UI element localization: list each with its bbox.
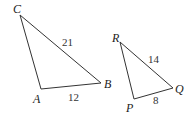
vertex-label-p: P — [125, 101, 134, 114]
side-label-pq: 8 — [153, 94, 159, 106]
triangle-pqr-outline — [120, 42, 173, 99]
side-label-cb: 21 — [62, 36, 73, 48]
side-label-rq: 14 — [148, 53, 160, 65]
triangle-pqr: R P Q 14 8 — [111, 31, 184, 114]
side-label-ab: 12 — [68, 91, 79, 103]
similar-triangles-diagram: C A B 21 12 R P Q 14 8 — [0, 0, 190, 114]
vertex-label-b: B — [104, 77, 112, 91]
vertex-label-r: R — [111, 31, 120, 45]
triangle-abc: C A B 21 12 — [13, 2, 112, 106]
vertex-label-q: Q — [175, 82, 184, 96]
triangle-abc-outline — [20, 15, 101, 89]
vertex-label-c: C — [13, 2, 22, 16]
vertex-label-a: A — [32, 92, 41, 106]
